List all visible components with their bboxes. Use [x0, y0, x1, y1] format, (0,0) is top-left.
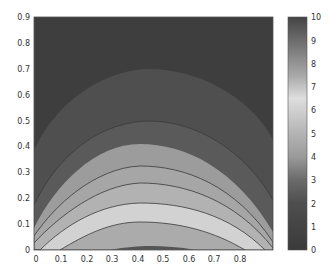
colorbar-tick: 8 — [311, 60, 316, 69]
y-tick: 0.6 — [17, 91, 30, 100]
x-axis: 0 0.1 0.2 0.3 0.4 0.5 0.6 0.7 0.8 — [33, 255, 246, 264]
colorbar-tick: 6 — [311, 106, 316, 115]
y-tick: 0.3 — [17, 168, 30, 177]
x-tick: 0.1 — [55, 255, 68, 264]
x-tick: 0.8 — [234, 255, 247, 264]
colorbar-gradient — [288, 17, 307, 250]
y-tick: 0.5 — [17, 117, 30, 126]
x-tick: 0.6 — [183, 255, 196, 264]
colorbar-tick: 7 — [311, 83, 316, 92]
x-tick: 0 — [33, 255, 38, 264]
x-tick: 0.3 — [106, 255, 119, 264]
y-tick: 0.7 — [17, 65, 30, 74]
colorbar-tick: 1 — [311, 223, 316, 232]
y-tick: 0 — [25, 246, 30, 255]
colorbar-tick: 3 — [311, 176, 316, 185]
y-tick: 0.2 — [17, 194, 30, 203]
y-tick: 0.1 — [17, 220, 30, 229]
colorbar-tick: 0 — [311, 246, 316, 255]
colorbar-tick: 5 — [311, 130, 316, 139]
colorbar-tick: 2 — [311, 200, 316, 209]
contour-plot: 0 0.1 0.2 0.3 0.4 0.5 0.6 0.7 0.8 0.9 0 … — [0, 0, 330, 272]
x-tick: 0.4 — [132, 255, 145, 264]
colorbar-tick: 10 — [311, 13, 321, 22]
plot-area — [34, 17, 273, 250]
x-tick: 0.5 — [157, 255, 170, 264]
x-tick: 0.2 — [81, 255, 94, 264]
y-tick: 0.4 — [17, 142, 30, 151]
colorbar: 0 1 2 3 4 5 6 7 8 9 10 — [288, 13, 321, 255]
y-axis: 0 0.1 0.2 0.3 0.4 0.5 0.6 0.7 0.8 0.9 — [17, 13, 30, 255]
colorbar-tick: 4 — [311, 153, 316, 162]
y-tick: 0.8 — [17, 39, 30, 48]
x-tick: 0.7 — [208, 255, 221, 264]
colorbar-tick: 9 — [311, 37, 316, 46]
y-tick: 0.9 — [17, 13, 30, 22]
